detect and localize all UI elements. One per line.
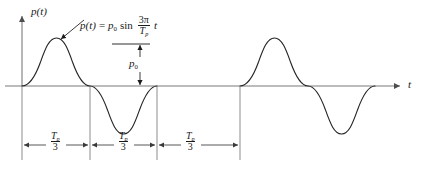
- dimension-denominator-1: 3: [119, 141, 128, 152]
- y-axis-label: p(t): [31, 6, 47, 17]
- dimension-denominator-2: 3: [186, 141, 195, 152]
- dimension-denominator-0: 3: [51, 141, 60, 152]
- equation-amplitude-symbol: p: [108, 19, 114, 31]
- figure-container: p(t) t p(t) = p0 sin 3π Tp t p0 Tp 3 Tp …: [0, 0, 424, 171]
- amplitude-dimension-label: p0: [129, 58, 138, 69]
- dimension-numerator-subscript-0: p: [57, 135, 60, 142]
- equation-fraction-numerator: 3π: [137, 15, 151, 25]
- dimension-numerator-1: Tp: [117, 131, 130, 141]
- dimension-numerator-subscript-1: p: [125, 135, 128, 142]
- equation-lhs: p(t): [80, 20, 96, 31]
- equation-callout: p(t) = p0 sin 3π Tp t: [80, 15, 157, 36]
- equation-fraction-denominator-subscript: p: [145, 30, 148, 37]
- dimension-fraction-1: Tp 3: [116, 131, 131, 152]
- equation-fraction: 3π Tp: [136, 15, 152, 36]
- waveform-plot: [0, 0, 424, 171]
- amplitude-subscript: 0: [135, 63, 138, 70]
- dimension-label-0: Tp 3: [48, 131, 63, 152]
- dimension-numerator-symbol-1: T: [119, 130, 125, 141]
- dimension-fraction-2: Tp 3: [183, 131, 198, 152]
- dimension-fraction-0: Tp 3: [48, 131, 63, 152]
- amplitude-symbol: p: [129, 57, 135, 69]
- dimension-numerator-subscript-2: p: [192, 135, 195, 142]
- equation-variable: t: [152, 20, 157, 31]
- dimension-numerator-0: Tp: [49, 131, 62, 141]
- equation-sin-function: sin: [117, 20, 136, 31]
- equation-equals-sign: =: [96, 20, 108, 31]
- equation-fraction-denominator: Tp: [138, 25, 151, 36]
- equation-amplitude-subscript: 0: [114, 25, 117, 32]
- dimension-numerator-symbol-2: T: [186, 130, 192, 141]
- x-axis-label: t: [408, 79, 411, 90]
- dimension-numerator-2: Tp: [184, 131, 197, 141]
- dimension-label-1: Tp 3: [116, 131, 131, 152]
- dimension-label-2: Tp 3: [183, 131, 198, 152]
- equation-amplitude: p0: [108, 20, 117, 31]
- dimension-numerator-symbol-0: T: [51, 130, 57, 141]
